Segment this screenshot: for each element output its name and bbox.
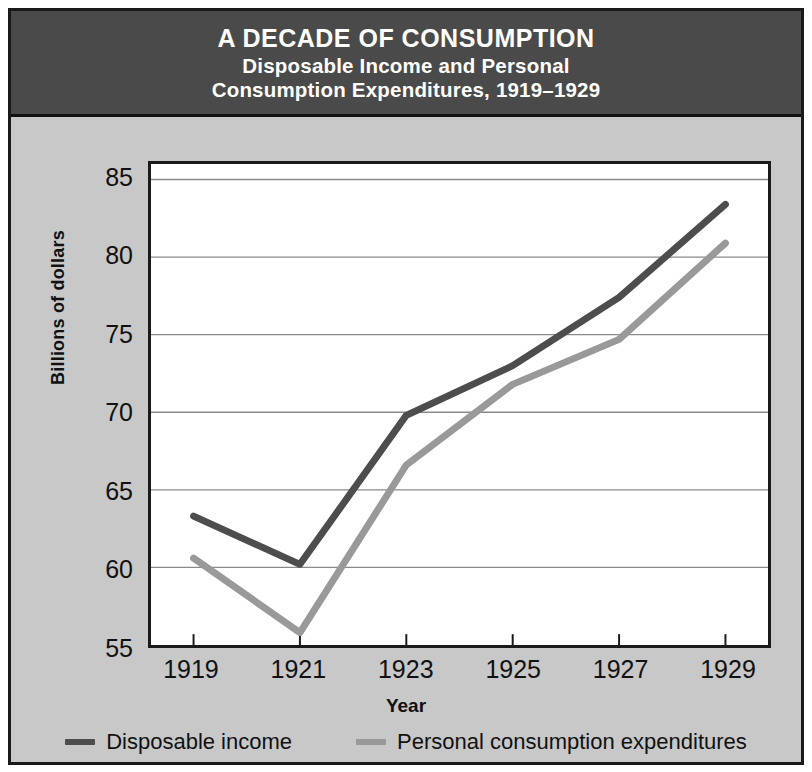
legend-line-icon [65,739,95,745]
x-axis-tick-label: 1925 [453,655,573,684]
y-axis-tick-label: 60 [71,555,133,584]
chart-title: A DECADE OF CONSUMPTION [217,24,594,52]
chart-figure: A DECADE OF CONSUMPTION Disposable Incom… [8,8,804,765]
x-axis-title: Year [11,695,801,717]
y-axis-title: Billions of dollars [48,158,69,458]
x-axis-tick-label: 1923 [346,655,466,684]
plot-svg [151,164,768,645]
chart-legend: Disposable incomePersonal consumption ex… [11,729,801,755]
chart-subtitle-line-1: Disposable Income and Personal [212,54,601,78]
y-axis-tick-label: 55 [71,634,133,663]
y-axis-tick-label: 80 [71,241,133,270]
x-axis-tick-label: 1927 [561,655,681,684]
legend-item[interactable]: Disposable income [65,729,292,755]
legend-item-label: Disposable income [106,729,292,755]
chart-subtitle-line-2: Consumption Expenditures, 1919–1929 [212,78,601,102]
y-axis-tick-label: 75 [71,319,133,348]
y-axis-tick-label: 65 [71,476,133,505]
legend-line-icon [356,739,386,745]
x-axis-tick-label: 1929 [668,655,788,684]
chart-title-band: A DECADE OF CONSUMPTION Disposable Incom… [11,11,801,117]
y-axis-tick-label: 70 [71,398,133,427]
chart-body: Billions of dollars 55606570758085 19191… [11,117,801,762]
x-axis-tick-label: 1919 [131,655,251,684]
chart-subtitle: Disposable Income and Personal Consumpti… [212,54,601,101]
series-lines [194,204,726,632]
legend-item-label: Personal consumption expenditures [397,729,747,755]
x-axis-tick-label: 1921 [238,655,358,684]
y-axis-tick-label: 85 [71,162,133,191]
legend-item[interactable]: Personal consumption expenditures [356,729,747,755]
gridlines [151,180,768,568]
x-axis-tick-marks [194,634,726,645]
plot-area [148,161,771,648]
